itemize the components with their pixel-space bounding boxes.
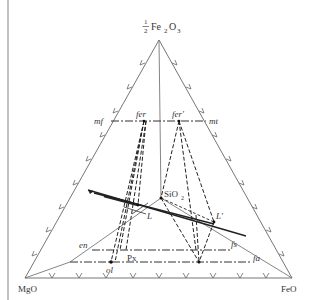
- label-fs: fs: [231, 239, 238, 249]
- triangle-outline: [25, 40, 292, 278]
- label-mt: mt: [209, 116, 218, 126]
- label-fer-prime: fer': [172, 109, 185, 119]
- label-ol: ol: [106, 265, 114, 275]
- svg-text:SiO: SiO: [164, 189, 179, 199]
- ternary-diagram: 1 2 Fe 2 O 3 MgO FeO mf mt fer fer' SiO …: [0, 0, 315, 300]
- label-fer: fer: [136, 109, 146, 119]
- label-L: L: [146, 211, 152, 221]
- label-mf: mf: [94, 116, 104, 126]
- label-en: en: [79, 240, 88, 250]
- fer-dashed-lines: [111, 121, 146, 262]
- svg-text:O: O: [169, 21, 176, 32]
- bottom-edge-ticks: [49, 273, 269, 278]
- label-fa: fa: [253, 253, 261, 263]
- svg-text:2: 2: [164, 27, 168, 35]
- vertex-label-feo: FeO: [281, 284, 297, 294]
- svg-text:Fe: Fe: [151, 21, 162, 32]
- right-edge-ticks: [172, 60, 284, 256]
- apex-sio2-line: [159, 40, 161, 198]
- vertex-label-mgo: MgO: [18, 284, 38, 294]
- diagram-canvas: 1 2 Fe 2 O 3 MgO FeO mf mt fer fer' SiO …: [0, 0, 315, 300]
- svg-text:2: 2: [181, 195, 184, 201]
- svg-text:2: 2: [144, 27, 148, 35]
- label-sio2: SiO 2: [164, 189, 184, 201]
- svg-text:1: 1: [144, 18, 148, 26]
- label-Px: Px: [127, 253, 137, 263]
- left-edge-ticks: [32, 60, 145, 256]
- vertex-label-fe2o3: 1 2 Fe 2 O 3: [143, 18, 182, 35]
- svg-text:3: 3: [177, 27, 181, 35]
- label-L-prime: L': [215, 211, 224, 221]
